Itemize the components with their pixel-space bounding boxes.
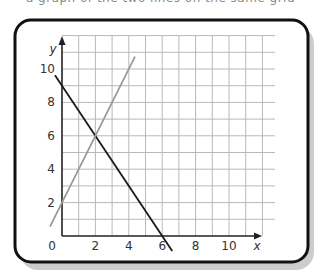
chart: 2468102468100xy: [0, 0, 321, 272]
frame: [15, 20, 308, 262]
svg-text:x: x: [252, 239, 261, 253]
svg-text:4: 4: [125, 239, 133, 253]
svg-text:2: 2: [47, 196, 55, 210]
svg-text:10: 10: [221, 239, 236, 253]
svg-text:8: 8: [192, 239, 200, 253]
svg-text:10: 10: [40, 62, 55, 76]
svg-text:6: 6: [47, 129, 55, 143]
svg-text:0: 0: [48, 239, 56, 253]
svg-text:4: 4: [47, 162, 55, 176]
svg-text:2: 2: [92, 239, 100, 253]
svg-text:y: y: [48, 42, 57, 56]
svg-text:8: 8: [47, 95, 55, 109]
svg-text:6: 6: [158, 239, 166, 253]
